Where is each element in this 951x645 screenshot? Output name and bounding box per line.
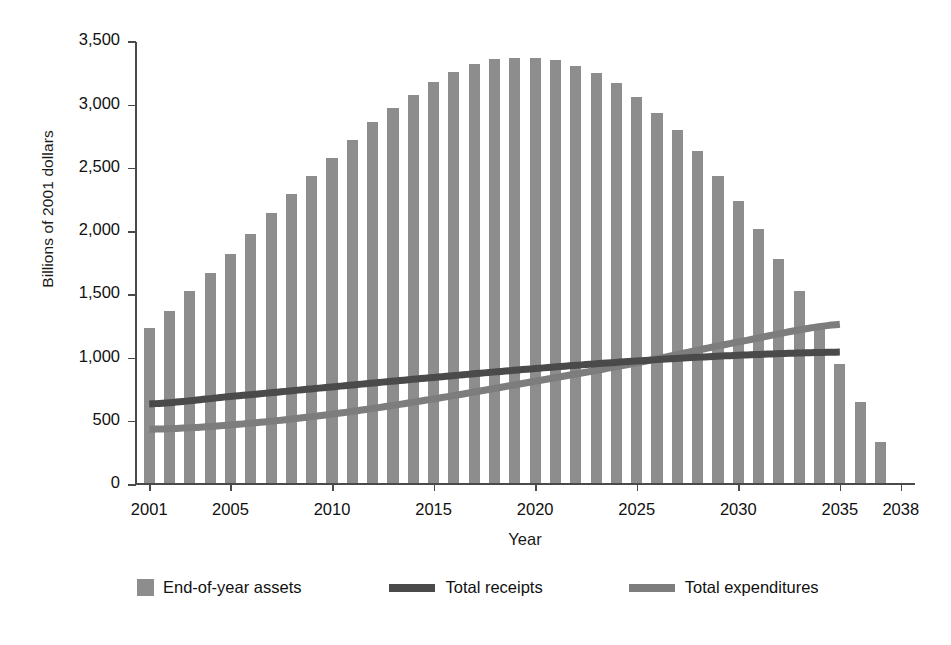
x-axis-tick-label: 2015 [415, 500, 452, 519]
y-axis-title: Billions of 2001 dollars [39, 99, 57, 319]
legend-label-total-receipts: Total receipts [445, 578, 542, 597]
y-axis-tick-label: 2,500 [79, 157, 120, 176]
x-axis-tick-label: 2035 [821, 500, 858, 519]
x-axis-tick-label: 2038 [882, 500, 919, 519]
y-axis-tick-label: 3,500 [79, 30, 120, 49]
x-axis-tick [840, 484, 842, 491]
x-axis-tick [738, 484, 740, 491]
legend-item-total-receipts: Total receipts [389, 578, 542, 597]
y-axis-tick-label: 3,000 [79, 94, 120, 113]
legend-swatch-bar-icon [137, 579, 154, 596]
x-axis-tick-label: 2001 [131, 500, 168, 519]
chart-figure: Billions of 2001 dollars 05001,0001,5002… [0, 0, 951, 645]
x-axis-tick [434, 484, 436, 491]
chart-legend: End-of-year assets Total receipts Total … [135, 578, 925, 597]
x-axis-title: Year [135, 530, 915, 549]
x-axis-tick [901, 484, 903, 491]
y-axis-tick-label: 1,500 [79, 283, 120, 302]
line-total-expenditures [149, 324, 840, 429]
x-axis-tick-label: 2030 [720, 500, 757, 519]
x-axis-tick [230, 484, 232, 491]
x-axis-tick-label: 2025 [618, 500, 655, 519]
line-series-layer [135, 42, 915, 485]
x-axis-tick [535, 484, 537, 491]
x-axis-tick [637, 484, 639, 491]
legend-swatch-line-icon [629, 584, 675, 592]
y-axis-tick-label: 1,000 [79, 347, 120, 366]
legend-item-total-expenditures: Total expenditures [629, 578, 819, 597]
line-total-receipts [149, 352, 840, 404]
x-axis-tick [332, 484, 334, 491]
x-axis-tick-label: 2020 [517, 500, 554, 519]
legend-label-total-expenditures: Total expenditures [685, 578, 819, 597]
y-axis-tick-label: 500 [92, 410, 120, 429]
x-axis-tick-label: 2010 [314, 500, 351, 519]
legend-item-end-of-year-assets: End-of-year assets [137, 578, 301, 597]
plot-area: 05001,0001,5002,0002,5003,0003,500 20012… [135, 42, 915, 485]
x-axis-tick [149, 484, 151, 491]
legend-label-end-of-year-assets: End-of-year assets [163, 578, 301, 597]
x-axis-tick-label: 2005 [212, 500, 249, 519]
y-axis-tick-label: 2,000 [79, 220, 120, 239]
y-axis-tick-label: 0 [111, 473, 120, 492]
legend-swatch-line-icon [389, 584, 435, 592]
